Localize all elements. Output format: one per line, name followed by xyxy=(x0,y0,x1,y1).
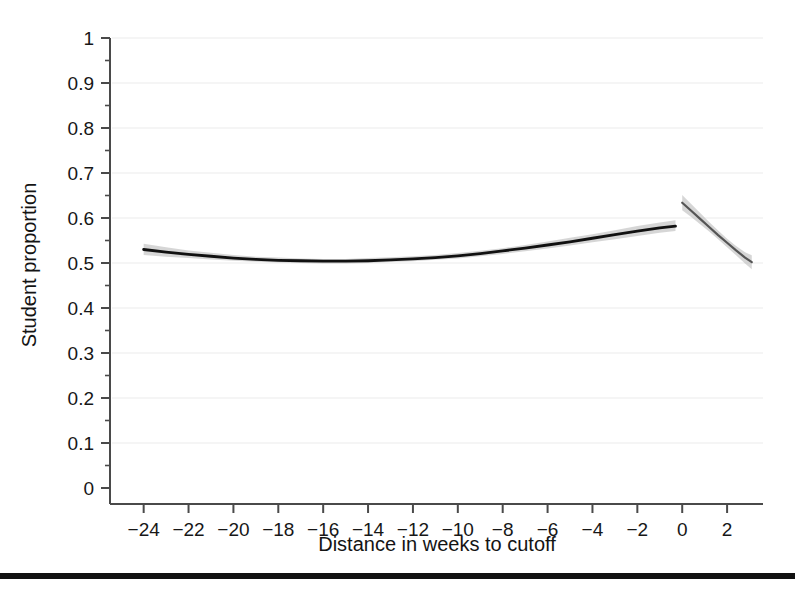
y-tick-label: 0 xyxy=(83,478,94,499)
y-tick-label: 0.2 xyxy=(68,388,94,409)
y-tick-label: 0.4 xyxy=(68,298,95,319)
y-tick-label: 0.3 xyxy=(68,343,94,364)
y-tick-label: 0.5 xyxy=(68,253,94,274)
x-tick-label: −18 xyxy=(262,519,294,540)
x-axis-title: Distance in weeks to cutoff xyxy=(318,533,556,555)
y-tick-label: 0.7 xyxy=(68,163,94,184)
gridlines xyxy=(112,38,763,443)
axes xyxy=(110,38,763,504)
y-axis-title: Student proportion xyxy=(18,183,40,348)
y-tick-label: 1 xyxy=(83,28,94,49)
x-tick-label: 2 xyxy=(722,519,733,540)
student-proportion-rd-chart: 00.10.20.30.40.50.60.70.80.91 −24−22−20−… xyxy=(0,0,795,597)
x-tick-label: −2 xyxy=(627,519,649,540)
x-tick-label: −22 xyxy=(172,519,204,540)
page-footer-rule xyxy=(0,573,795,579)
figure-panel: 00.10.20.30.40.50.60.70.80.91 −24−22−20−… xyxy=(0,0,795,597)
y-axis-ticks xyxy=(101,38,110,488)
x-tick-label: −24 xyxy=(128,519,161,540)
y-tick-label: 0.6 xyxy=(68,208,94,229)
x-axis-ticks xyxy=(144,504,727,513)
y-tick-label: 0.1 xyxy=(68,433,94,454)
y-tick-label: 0.8 xyxy=(68,118,94,139)
confidence-band xyxy=(682,195,752,269)
x-tick-label: −20 xyxy=(217,519,249,540)
y-axis-tick-labels: 00.10.20.30.40.50.60.70.80.91 xyxy=(68,28,95,499)
x-tick-label: 0 xyxy=(677,519,688,540)
x-tick-label: −4 xyxy=(582,519,604,540)
y-tick-label: 0.9 xyxy=(68,73,94,94)
fitted-line xyxy=(144,226,676,261)
